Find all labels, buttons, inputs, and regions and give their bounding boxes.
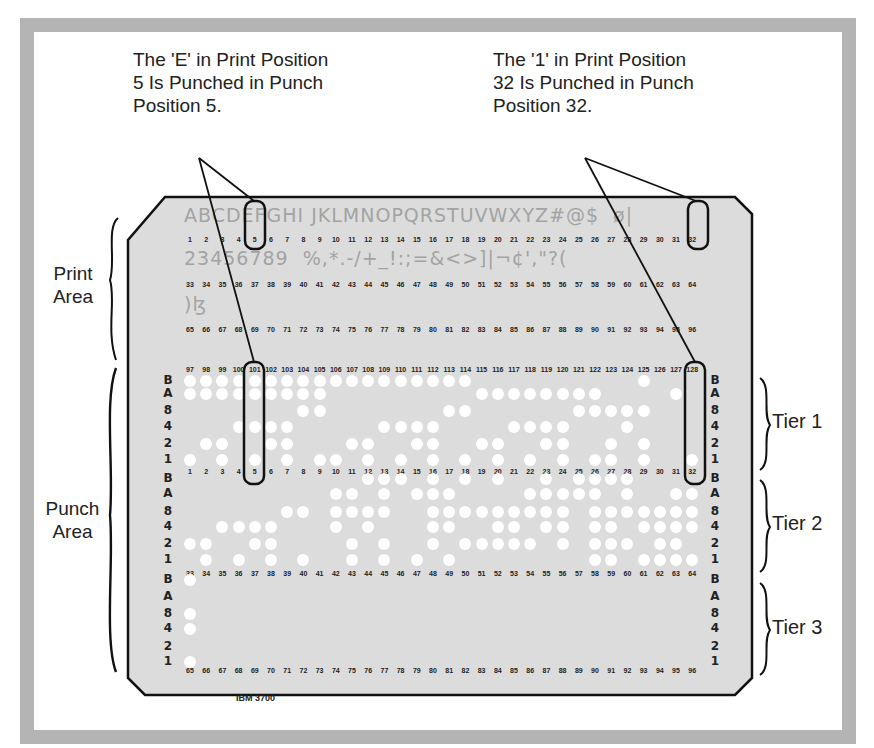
tier-1-brace-icon bbox=[760, 378, 770, 470]
highlight-print-position-5 bbox=[245, 201, 265, 249]
tier-3-brace-icon bbox=[760, 583, 770, 675]
punch-area-brace-icon bbox=[110, 368, 116, 672]
highlight-punch-position-5 bbox=[244, 362, 264, 484]
tier-2-brace-icon bbox=[760, 480, 770, 572]
highlight-punch-position-32 bbox=[685, 362, 705, 484]
print-area-brace-icon bbox=[110, 218, 118, 360]
highlight-print-position-32 bbox=[688, 201, 708, 249]
annotations bbox=[0, 0, 874, 748]
